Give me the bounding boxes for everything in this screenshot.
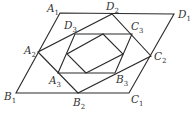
vertex-label-b3: B3 [115,73,128,88]
vertex-letter: C [131,93,139,105]
vertex-letter: B [3,90,12,102]
vertex-label-b1: B1 [3,90,16,105]
nested-parallelograms-figure: A1D2D1D3C3A2C2A3B3B1B2C1 [0,0,193,118]
vertex-subscript: 2 [162,57,166,65]
vertex-subscript: 2 [114,7,118,15]
vertex-subscript: 2 [81,103,85,111]
vertex-letter: C [131,20,139,32]
vertex-letter: B [72,96,81,108]
vertex-label-d1: D1 [177,8,191,23]
vertex-label-c3: C3 [131,20,144,35]
vertex-label-d2: D2 [105,0,119,15]
vertex-label-a2: A2 [23,44,36,59]
vertex-subscript: 1 [139,100,143,108]
vertex-label-b2: B2 [72,96,85,111]
vertex-label-a3: A3 [48,74,61,89]
polygon-layer [16,13,174,93]
geometry-diagram: A1D2D1D3C3A2C2A3B3B1B2C1 [0,0,193,118]
vertex-label-a1: A1 [46,2,59,17]
vertex-label-c2: C2 [154,50,167,65]
vertex-subscript: 1 [186,15,190,23]
vertex-label-c1: C1 [131,93,144,108]
vertex-label-d3: D3 [63,19,77,34]
vertex-subscript: 1 [55,9,59,17]
vertex-subscript: 3 [57,81,61,89]
vertex-letter: C [154,50,162,62]
vertex-subscript: 3 [139,27,143,35]
vertex-label-layer: A1D2D1D3C3A2C2A3B3B1B2C1 [3,0,191,111]
vertex-subscript: 3 [72,26,76,34]
vertex-letter: B [115,73,124,85]
vertex-subscript: 2 [32,51,36,59]
vertex-subscript: 1 [12,97,16,105]
polygon-inner-midpoint-quad [67,34,123,73]
polygon-a3b3c3d3 [58,34,132,73]
vertex-subscript: 3 [124,80,128,88]
